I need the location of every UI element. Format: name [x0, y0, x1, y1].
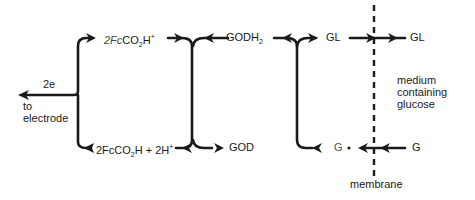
godh2-sub: 2 [259, 38, 263, 45]
label-to: to [23, 100, 32, 112]
diagram-canvas: 2FcCO2H+ 2FcCO2H + 2H+ GODH2 GOD GL GL G… [0, 0, 475, 200]
arrowhead-g-in [312, 143, 322, 153]
node-fc-reduced: 2FcCO2H + 2H+ [96, 141, 173, 161]
arrow-to-god [193, 140, 212, 148]
arrow-to-fc-reduced [78, 95, 90, 148]
node-god: GOD [229, 141, 254, 153]
fc-ox-prefix: 2Fc [104, 34, 122, 46]
arrowhead-to-2h [182, 143, 192, 153]
arrow-fc-to-god [168, 38, 192, 148]
fc-red-tail: H + 2H [135, 144, 170, 156]
arrowhead-fc-red [84, 143, 94, 153]
godh2-main: GODH [226, 31, 259, 43]
node-fc-oxidized: 2FcCO2H+ [104, 31, 155, 51]
label-electrode: electrode [23, 112, 68, 124]
node-g-inner: G [334, 141, 343, 153]
fc-ox-tail: H [143, 34, 151, 46]
node-godh2: GODH2 [226, 31, 263, 48]
node-gl-inner: GL [326, 31, 341, 43]
arrowhead-to-god [214, 143, 224, 153]
label-containing: containing [397, 86, 447, 98]
fc-ox-sup: + [151, 33, 155, 40]
node-gl-outer: GL [410, 31, 425, 43]
label-medium: medium [397, 74, 436, 86]
node-g-outer: G [412, 141, 421, 153]
arrow-to-fc-oxidized [26, 38, 92, 95]
arrow-godh2-gl [274, 38, 312, 148]
fc-red-prefix: 2FcCO [96, 144, 131, 156]
label-glucose: glucose [397, 98, 435, 110]
fc-ox-main: CO [122, 34, 139, 46]
fc-red-sup: + [169, 143, 173, 150]
label-membrane: membrane [350, 178, 403, 190]
label-electrons: 2e [43, 78, 55, 90]
